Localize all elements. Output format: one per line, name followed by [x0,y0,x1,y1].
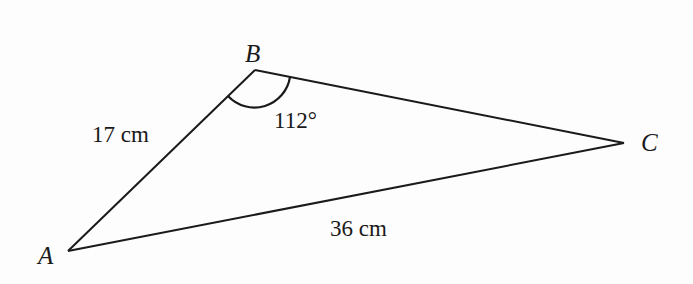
vertex-label-b: B [245,40,260,67]
side-ab [68,70,255,251]
side-label-ac: 36 cm [330,216,387,241]
angle-arc-b [228,77,290,108]
angle-label-b: 112° [274,108,317,133]
vertex-label-c: C [641,129,658,156]
side-label-ab: 17 cm [92,122,149,147]
triangle-diagram: A B C 17 cm 36 cm 112° [0,0,693,284]
vertex-label-a: A [36,242,54,269]
diagram-svg: A B C 17 cm 36 cm 112° [0,0,693,284]
